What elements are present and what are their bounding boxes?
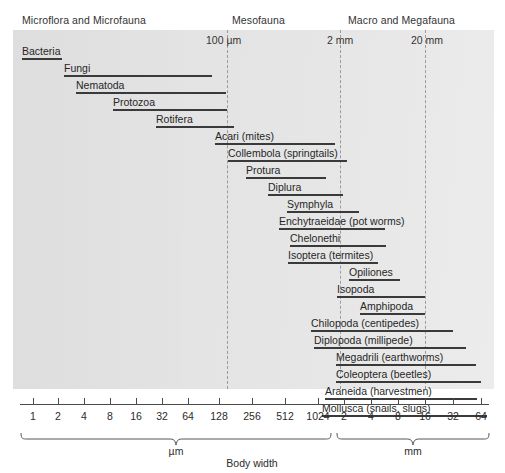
axis-tick	[285, 398, 286, 404]
axis-tick-label: 8	[107, 410, 113, 422]
brace-millimetre	[336, 432, 490, 446]
axis-tick	[33, 398, 34, 404]
taxon-label: Bacteria	[22, 46, 61, 57]
axis-tick-label: 512	[276, 410, 294, 422]
axis-tick-label: 4	[81, 410, 87, 422]
chart-figure: Microflora and Microfauna Mesofauna Macr…	[0, 0, 505, 473]
axis-tick	[110, 398, 111, 404]
taxon-label: Amphipoda	[360, 301, 413, 312]
axis-tick	[425, 398, 426, 404]
axis-tick-label: 1	[30, 410, 36, 422]
axis-tick-label: 32	[156, 410, 168, 422]
axis-tick	[252, 398, 253, 404]
taxon-label: Protozoa	[113, 97, 155, 108]
axis-tick	[481, 398, 482, 404]
x-axis-title: Body width	[226, 457, 277, 469]
taxon-label: Fungi	[64, 63, 90, 74]
taxon-label: Enchytraeidae (pot worms)	[279, 216, 404, 227]
axis-tick	[318, 398, 319, 404]
brace-label-millimetre: mm	[404, 445, 422, 457]
axis-tick	[371, 398, 372, 404]
axis-tick	[162, 398, 163, 404]
axis-tick-label: 2	[341, 410, 347, 422]
taxon-label: Isoptera (termites)	[288, 250, 373, 261]
taxon-label: Opiliones	[349, 267, 393, 278]
brace-label-micrometre: µm	[169, 445, 184, 457]
axis-tick	[219, 398, 220, 404]
taxon-label: Protura	[246, 165, 280, 176]
axis-tick-label: 4	[368, 410, 374, 422]
axis-tick	[344, 398, 345, 404]
axis-tick-label: 64	[475, 410, 487, 422]
taxon-label: Chilopoda (centipedes)	[311, 318, 419, 329]
axis-tick-label: 32	[447, 410, 459, 422]
axis-tick-label: 1024	[306, 410, 329, 422]
axis-tick-label: 16	[130, 410, 142, 422]
taxon-label: Diplopoda (millipede)	[314, 335, 413, 346]
x-axis-line	[20, 404, 489, 405]
axis-tick-label: 8	[395, 410, 401, 422]
axis-tick	[188, 398, 189, 404]
taxon-label: Araneida (harvestmen)	[325, 386, 432, 397]
taxon-label: Megadrili (earthworms)	[336, 352, 443, 363]
group-label-mesofauna: Mesofauna	[232, 14, 285, 26]
axis-tick-label: 64	[182, 410, 194, 422]
axis-tick	[136, 398, 137, 404]
axis-tick	[398, 398, 399, 404]
brace-micrometre	[20, 432, 332, 446]
group-label-macro-megafauna: Macro and Megafauna	[348, 14, 455, 26]
taxon-label: Symphyla	[287, 199, 333, 210]
taxon-label: Isopoda	[337, 284, 374, 295]
axis-tick-label: 256	[243, 410, 261, 422]
taxon-label: Nematoda	[76, 80, 124, 91]
axis-tick-label: 16	[419, 410, 431, 422]
axis-tick-label: 128	[210, 410, 228, 422]
axis-tick-label: 2	[55, 410, 61, 422]
axis-tick	[84, 398, 85, 404]
taxon-label: Chelonethi	[290, 233, 340, 244]
axis-tick	[453, 398, 454, 404]
taxon-label: Rotifera	[156, 114, 193, 125]
group-label-microflora: Microflora and Microfauna	[22, 14, 146, 26]
taxon-label: Coleoptera (beetles)	[336, 369, 431, 380]
taxon-label: Collembola (springtails)	[228, 148, 338, 159]
axis-tick	[58, 398, 59, 404]
taxon-label: Diplura	[268, 182, 301, 193]
taxon-label: Acari (mites)	[215, 131, 274, 142]
